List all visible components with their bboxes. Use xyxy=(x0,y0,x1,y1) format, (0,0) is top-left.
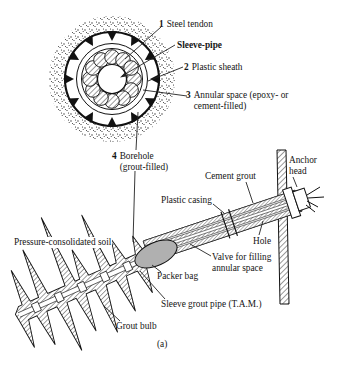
figure-ground-anchor: 1 Steel tendon Sleeve-pipe 2 Plastic she… xyxy=(0,0,340,375)
label-pressure-consolidated-soil: Pressure-consolidated soil xyxy=(13,237,112,248)
anchor-head-leader xyxy=(293,177,297,187)
label-borehole: 4 Borehole (grout-filled) xyxy=(112,151,180,173)
cement-grout-leader xyxy=(246,182,253,203)
label-annular-space-num: 3 xyxy=(186,90,191,101)
sleeve-pipe-circle xyxy=(98,65,127,94)
grout-bulb-body xyxy=(0,183,176,370)
label-anchor-head: Anchor head xyxy=(289,155,329,177)
borehole-leader-long xyxy=(133,171,135,242)
label-hole: Hole xyxy=(253,236,271,247)
tendon-tails xyxy=(306,187,324,212)
figure-caption: (a) xyxy=(157,339,167,350)
label-annular-space: 3 Annular space (epoxy- or cement-filled… xyxy=(186,90,300,112)
label-steel-tendon-num: 1 xyxy=(159,19,164,30)
label-borehole-text: Borehole (grout-filled) xyxy=(120,151,180,173)
retaining-wall xyxy=(277,150,289,304)
anchor-diagram-svg xyxy=(0,0,340,375)
cross-section-drawing xyxy=(58,25,167,134)
label-valve: Valve for filling annular space xyxy=(212,252,290,274)
plastic-casing-leader xyxy=(213,204,224,213)
label-sleeve-pipe: Sleeve-pipe xyxy=(177,40,222,51)
label-sleeve-grout-pipe: Sleeve grout pipe (T.A.M.) xyxy=(161,299,262,310)
label-cement-grout: Cement grout xyxy=(205,171,256,182)
label-plastic-sheath-num: 2 xyxy=(184,62,189,73)
label-plastic-sheath: 2 Plastic sheath xyxy=(184,62,243,73)
valve-leader xyxy=(190,244,211,256)
label-packer-bag: Packer bag xyxy=(157,271,198,282)
label-borehole-num: 4 xyxy=(112,151,117,162)
label-steel-tendon-text: Steel tendon xyxy=(167,19,213,30)
label-plastic-casing: Plastic casing xyxy=(161,195,212,206)
label-annular-space-text: Annular space (epoxy- or cement-filled) xyxy=(194,90,300,112)
label-plastic-sheath-text: Plastic sheath xyxy=(192,62,243,73)
label-grout-bulb: Grout bulb xyxy=(116,321,157,332)
label-steel-tendon: 1 Steel tendon xyxy=(159,19,213,30)
